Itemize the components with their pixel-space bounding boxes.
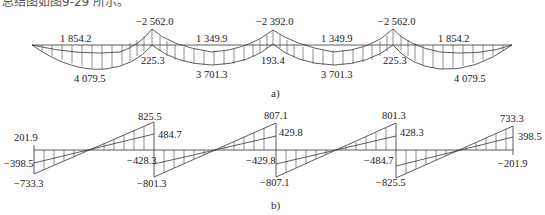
label-shear-s2-right-bottom: −807.1 bbox=[260, 177, 290, 188]
label-shear-end-right-top: 733.3 bbox=[500, 113, 524, 124]
label-shear-s1-left-top: 825.5 bbox=[138, 111, 162, 122]
label-shear-s3-left-top: 801.3 bbox=[382, 110, 406, 121]
shear-span-1 bbox=[34, 122, 154, 174]
label-shear-s2-right-mid: −429.8 bbox=[246, 155, 276, 166]
label-span1-upper: 1 854.2 bbox=[60, 33, 92, 44]
label-support1-negative: −2 562.0 bbox=[136, 16, 173, 27]
label-support2-negative: −2 392.0 bbox=[256, 16, 293, 27]
label-shear-s2-left-mid: 429.8 bbox=[279, 127, 303, 138]
label-support3-negative: −2 562.0 bbox=[378, 16, 415, 27]
label-shear-s1-right-bottom: −801.3 bbox=[137, 178, 167, 189]
label-shear-s2-left-top: 807.1 bbox=[264, 110, 288, 121]
label-span2-lower: 3 701.3 bbox=[196, 69, 228, 80]
panel-b-label: b) bbox=[271, 199, 281, 212]
label-span3-upper: 1 349.9 bbox=[321, 33, 353, 44]
label-shear-end-left-mid: −398.5 bbox=[4, 158, 34, 169]
shear-envelope-diagram: 201.9 −398.5 −733.3 825.5 484.7 −428.3 −… bbox=[4, 110, 542, 212]
moment-envelope-diagram: −2 562.0 −2 392.0 −2 562.0 1 854.2 1 349… bbox=[32, 16, 512, 100]
label-span4-upper: 1 854.2 bbox=[438, 33, 470, 44]
diagram-canvas: −2 562.0 −2 392.0 −2 562.0 1 854.2 1 349… bbox=[0, 0, 545, 215]
label-shear-s3-right-bottom: −825.5 bbox=[376, 177, 406, 188]
label-shear-end-right-bottom: −201.9 bbox=[498, 158, 528, 169]
label-shear-end-right-mid: 398.5 bbox=[518, 131, 542, 142]
label-support3-positive: 225.3 bbox=[383, 55, 407, 66]
label-shear-s1-left-mid: 484.7 bbox=[158, 129, 182, 140]
label-span2-upper: 1 349.9 bbox=[196, 33, 228, 44]
label-support1-positive: 225.3 bbox=[141, 55, 165, 66]
label-shear-s3-left-mid: 428.3 bbox=[400, 127, 424, 138]
label-support2-positive: 193.4 bbox=[261, 55, 285, 66]
label-span3-lower: 3 701.3 bbox=[321, 69, 353, 80]
panel-a-label: a) bbox=[271, 87, 280, 100]
label-shear-s1-right-mid: −428.3 bbox=[127, 155, 157, 166]
label-shear-end-left-top: 201.9 bbox=[14, 132, 38, 143]
label-span4-lower: 4 079.5 bbox=[454, 73, 486, 84]
label-span1-lower: 4 079.5 bbox=[74, 73, 106, 84]
label-shear-s3-right-mid: −484.7 bbox=[364, 155, 394, 166]
label-shear-end-left-bottom: −733.3 bbox=[14, 178, 44, 189]
